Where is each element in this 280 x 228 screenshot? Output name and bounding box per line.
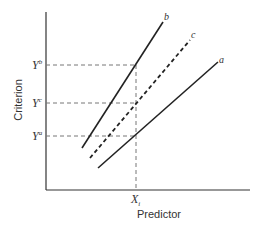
y-axis-label: Criterion (12, 79, 24, 121)
line-label-a: a (219, 54, 224, 65)
line-b (82, 22, 163, 148)
x-tick-xi: Xi (130, 192, 140, 208)
y-tick-yb: Yb (32, 58, 43, 72)
y-tick-yc: Yc (32, 96, 43, 110)
y-tick-ya: Ya (32, 129, 43, 143)
line-label-c: c (191, 29, 196, 40)
line-label-b: b (164, 11, 169, 22)
x-axis-label: Predictor (137, 208, 181, 220)
regression-diagram: b c a Yb Yc Ya Xi Predictor Criterion (0, 0, 280, 228)
